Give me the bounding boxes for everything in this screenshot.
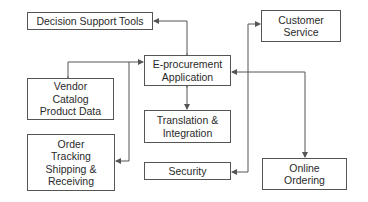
node-online-ordering: Online Ordering (262, 158, 347, 190)
node-label: Shipping & (46, 163, 97, 176)
node-e-procurement-application: E-procurement Application (144, 55, 231, 86)
edge-eproc-dst (154, 21, 187, 54)
node-label: E-procurement (153, 58, 222, 71)
node-label: Online (284, 162, 325, 175)
node-label: Vendor (40, 80, 101, 93)
node-label: Integration (157, 127, 218, 140)
node-translation-integration: Translation & Integration (144, 110, 231, 143)
node-label: Order (46, 138, 97, 151)
node-decision-support-tools: Decision Support Tools (27, 12, 153, 30)
node-label: Customer (278, 14, 324, 27)
node-label: Receiving (46, 175, 97, 188)
node-order-tracking: Order Tracking Shipping & Receiving (27, 134, 115, 191)
node-label: Application (153, 71, 222, 84)
edge-eproc-cs (248, 24, 260, 172)
node-label: Service (278, 26, 324, 39)
node-label: Catalog (40, 93, 101, 106)
node-security: Security (144, 162, 231, 180)
node-label: Ordering (284, 174, 325, 187)
node-label: Security (169, 165, 207, 178)
node-label: Product Data (40, 105, 101, 118)
node-customer-service: Customer Service (261, 10, 341, 42)
edge-eproc-vendor (68, 62, 143, 77)
node-label: Decision Support Tools (36, 15, 143, 28)
node-vendor-catalog: Vendor Catalog Product Data (27, 78, 114, 120)
node-label: Translation & (157, 114, 218, 127)
node-label: Tracking (46, 150, 97, 163)
